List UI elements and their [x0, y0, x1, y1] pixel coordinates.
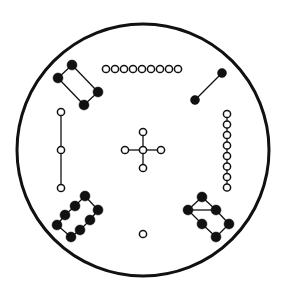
filled-node: [191, 96, 200, 105]
open-node: [157, 146, 164, 153]
filled-node: [79, 100, 89, 110]
open-node: [165, 65, 172, 72]
filled-node: [53, 73, 63, 83]
filled-node: [60, 210, 70, 220]
open-node: [223, 110, 230, 117]
open-node: [223, 142, 230, 149]
center-cross-hub: [121, 128, 164, 171]
top-right-filled-pair: [191, 69, 227, 105]
bottom-center-open-node: [139, 230, 146, 237]
open-node: [121, 146, 128, 153]
open-node: [223, 184, 230, 191]
open-node: [57, 184, 64, 191]
bottom-left-filled-rectangle: [52, 191, 103, 242]
open-node: [223, 152, 230, 159]
open-node: [57, 146, 64, 153]
filled-node: [93, 205, 103, 215]
open-node: [129, 65, 136, 72]
open-node: [223, 163, 230, 170]
bottom-right-filled-rectangle: [183, 192, 234, 242]
top-open-row: [102, 65, 181, 72]
open-node: [147, 65, 154, 72]
diagram-canvas: [0, 0, 286, 295]
open-node: [57, 108, 64, 115]
circular-layout-diagram: [0, 0, 286, 295]
open-node: [139, 146, 146, 153]
open-node: [139, 230, 146, 237]
open-node: [139, 128, 146, 135]
filled-node: [52, 220, 62, 230]
filled-node: [93, 87, 103, 97]
open-node: [138, 65, 145, 72]
filled-node: [75, 225, 85, 235]
right-open-column: [223, 110, 230, 191]
open-node: [156, 65, 163, 72]
open-node: [120, 65, 127, 72]
filled-node: [218, 69, 227, 78]
edge-line: [72, 65, 98, 92]
filled-node: [224, 219, 234, 229]
filled-node: [67, 60, 77, 70]
left-open-vertical: [57, 108, 64, 191]
open-node: [174, 65, 181, 72]
top-left-filled-rectangle: [53, 60, 103, 110]
filled-node: [183, 205, 193, 215]
edge-line: [195, 73, 222, 100]
filled-node: [70, 201, 80, 211]
filled-node: [85, 215, 95, 225]
open-node: [223, 131, 230, 138]
open-node: [139, 164, 146, 171]
edge-line: [58, 78, 84, 105]
filled-node: [211, 232, 221, 242]
filled-node: [66, 232, 76, 242]
filled-node: [80, 191, 90, 201]
open-node: [111, 65, 118, 72]
filled-node: [197, 192, 207, 202]
open-node: [102, 65, 109, 72]
filled-node: [211, 205, 221, 215]
filled-node: [197, 219, 207, 229]
open-node: [223, 173, 230, 180]
open-node: [223, 121, 230, 128]
